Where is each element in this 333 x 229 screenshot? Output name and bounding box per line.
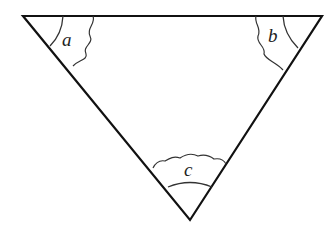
angle-c-label: c <box>184 159 193 180</box>
angle-b-label: b <box>268 25 278 46</box>
triangle-diagram: a b c <box>0 0 333 229</box>
angle-b-arc <box>283 16 298 48</box>
diagram-canvas: a b c <box>0 0 333 229</box>
angle-a-wavy-arc <box>73 16 94 66</box>
angle-a-label: a <box>62 29 72 50</box>
angle-c-arc <box>168 183 212 188</box>
